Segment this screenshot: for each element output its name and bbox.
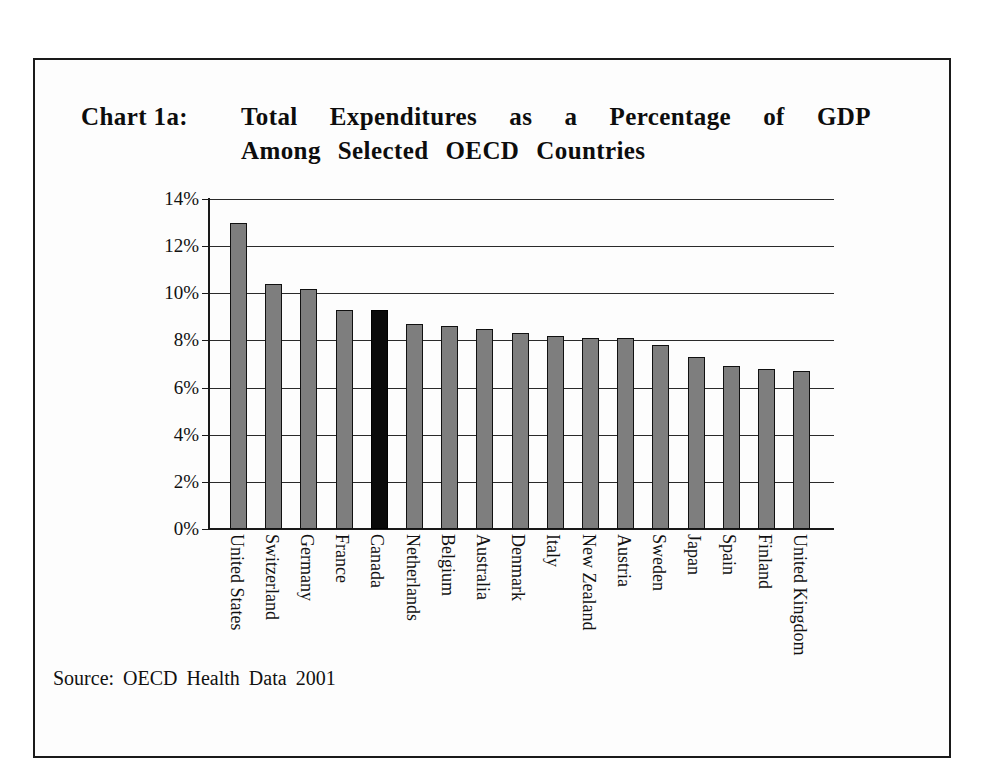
x-axis-category-label: New Zealand <box>580 534 598 630</box>
x-axis-category-label: Austria <box>615 534 633 587</box>
x-axis-category-label: United Kingdom <box>791 534 809 656</box>
y-axis-tick-label: 6% <box>135 378 199 397</box>
x-axis-category-label: Italy <box>544 534 562 567</box>
bar <box>688 357 705 529</box>
bar <box>723 366 740 529</box>
source-note: Source:OECDHealthData2001 <box>53 666 336 690</box>
bar <box>617 338 634 529</box>
y-axis-tick-label: 14% <box>135 189 199 208</box>
source-word: OECD <box>123 666 177 690</box>
bar <box>371 310 388 529</box>
x-axis-category-label: France <box>333 534 351 583</box>
bar <box>547 336 564 529</box>
source-word: 2001 <box>296 666 336 690</box>
x-axis-category-label: Canada <box>368 534 386 588</box>
x-axis-category-label: Finland <box>756 534 774 589</box>
x-axis-category-label: Spain <box>720 534 738 575</box>
bar <box>652 345 669 529</box>
x-axis-category-label: Germany <box>298 534 316 601</box>
x-axis-category-label: Denmark <box>509 534 527 601</box>
bar <box>793 371 810 529</box>
bar <box>230 223 247 529</box>
bar-series <box>209 199 834 529</box>
y-axis-tick-label: 0% <box>135 519 199 538</box>
bar <box>476 329 493 529</box>
y-axis-tick-labels: 0%2%4%6%8%10%12%14% <box>135 199 199 529</box>
y-axis-tick-label: 10% <box>135 283 199 302</box>
bar <box>336 310 353 529</box>
plot-area <box>209 199 834 529</box>
bar <box>265 284 282 529</box>
y-axis-tick-label: 8% <box>135 330 199 349</box>
x-axis-category-label: Netherlands <box>404 534 422 621</box>
source-word: Data <box>249 666 287 690</box>
bar <box>406 324 423 529</box>
x-axis-category-label: United States <box>228 534 246 631</box>
source-word: Source: <box>53 666 114 690</box>
bar <box>582 338 599 529</box>
x-axis-category-label: Sweden <box>650 534 668 591</box>
y-axis-tick-label: 12% <box>135 236 199 255</box>
x-axis-category-label: Japan <box>685 534 703 575</box>
y-axis-tick <box>202 529 210 530</box>
plot-wrapper: 0%2%4%6%8%10%12%14% United StatesSwitzer… <box>35 60 953 760</box>
bar <box>300 289 317 529</box>
x-axis-category-label: Australia <box>474 534 492 600</box>
x-axis-category-label: Belgium <box>439 534 457 596</box>
bar <box>512 333 529 529</box>
y-axis-tick-label: 2% <box>135 472 199 491</box>
bar <box>758 369 775 529</box>
chart-frame-border: Chart 1a: TotalExpendituresasaPercentage… <box>33 58 951 758</box>
bar <box>441 326 458 529</box>
source-word: Health <box>187 666 240 690</box>
x-axis-category-label: Switzerland <box>263 534 281 620</box>
y-axis-tick-label: 4% <box>135 425 199 444</box>
